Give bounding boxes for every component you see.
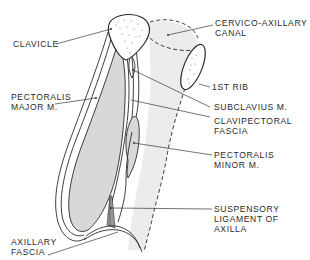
leader-clavicle	[56, 29, 111, 44]
label-first-rib: 1ST RIB	[212, 82, 249, 92]
pectoralis-major-muscle	[56, 32, 126, 241]
label-axillary-fascia-line2: FASCIA	[11, 247, 45, 257]
label-clavicle: CLAVICLE	[13, 39, 59, 49]
label-cervico-axillary-canal-line1: CERVICO-AXILLARY	[215, 18, 307, 28]
label-subclavius: SUBCLAVIUS M.	[214, 102, 288, 112]
label-clavipectoral-fascia-line1: CLAVIPECTORAL	[214, 116, 292, 126]
label-suspensory-ligament-line1: SUSPENSORY	[214, 204, 280, 214]
leader-rib	[199, 84, 210, 87]
label-pectoralis-minor-line1: PECTORALIS	[214, 150, 274, 160]
leader-dot-pec-minor	[133, 142, 135, 144]
label-pectoralis-major-line2: MAJOR M.	[11, 102, 58, 112]
label-pectoralis-minor-line2: MINOR M.	[214, 160, 259, 170]
label-pectoralis-major-line1: PECTORALIS	[11, 92, 71, 102]
leader-suspensory	[111, 208, 212, 209]
label-suspensory-ligament-line3: AXILLA	[214, 224, 247, 234]
diagram-canvas: CLAVICLE CERVICO-AXILLARY CANAL 1ST RIB …	[0, 0, 310, 260]
axilla-diagram: CLAVICLE CERVICO-AXILLARY CANAL 1ST RIB …	[0, 0, 310, 260]
label-suspensory-ligament-line2: LIGAMENT OF	[214, 214, 279, 224]
leader-dot-subclavius	[132, 69, 134, 71]
leader-dot-pec-major	[95, 97, 97, 99]
label-axillary-fascia-line1: AXILLARY	[11, 237, 57, 247]
label-cervico-axillary-canal-line2: CANAL	[215, 28, 247, 38]
leader-dot-canal	[167, 34, 169, 36]
leader-dot-clavicle	[110, 28, 112, 30]
leader-dot-suspensory	[110, 207, 112, 209]
label-clavipectoral-fascia-line2: FASCIA	[214, 126, 248, 136]
